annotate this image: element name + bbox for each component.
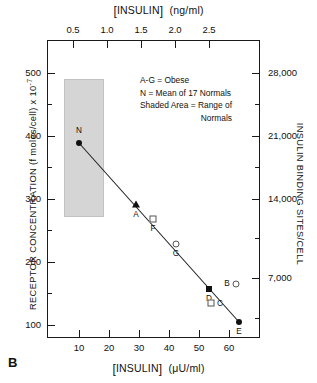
top-axis-title: [INSULIN] (ng/ml) [0, 4, 317, 18]
data-label-a: A [133, 210, 138, 219]
bottom-tick-label-2: 30 [134, 342, 145, 353]
bottom-tick-label-0: 10 [74, 342, 85, 353]
panel-letter: B [8, 355, 17, 370]
data-point-f[interactable] [150, 216, 157, 223]
data-label-e: E [236, 327, 241, 336]
left-tick-label-3: 200 [4, 256, 41, 267]
data-point-c[interactable] [208, 300, 215, 307]
legend-item-shaded: Shaded Area = Range of [140, 99, 232, 112]
bottom-tick-label-4: 50 [194, 342, 205, 353]
data-point-b[interactable] [233, 281, 240, 288]
data-point-d[interactable] [206, 286, 212, 292]
right-tick-label-0: 28,000 [268, 67, 297, 78]
legend: A-G = Obese N = Mean of 17 Normals Shade… [140, 74, 232, 124]
bottom-tick-label-3: 40 [164, 342, 175, 353]
legend-item-normals: N = Mean of 17 Normals [140, 87, 232, 100]
top-tick-label-4: 2.5 [202, 24, 215, 35]
left-tick-label-0: 500 [4, 67, 41, 78]
top-tick-label-0: 0.5 [66, 24, 79, 35]
legend-item-obese: A-G = Obese [140, 74, 232, 87]
data-point-a[interactable] [132, 201, 140, 208]
top-tick-label-1: 1.0 [100, 24, 113, 35]
left-tick-label-2: 300 [4, 193, 41, 204]
data-point-g[interactable] [173, 241, 180, 248]
data-point-n[interactable] [76, 140, 82, 146]
right-tick-label-1: 21,000 [268, 130, 297, 141]
data-label-n: N [76, 126, 82, 135]
left-tick-label-4: 100 [4, 319, 41, 330]
bottom-axis-title-main: INSULIN [116, 362, 159, 374]
legend-item-shaded-cont: Normals [140, 112, 232, 125]
bottom-axis-title: [INSULIN] (μU/ml) [0, 362, 317, 376]
top-axis-title-unit: (ng/ml) [170, 4, 204, 16]
figure-panel-b: [INSULIN] (ng/ml) [INSULIN] (μU/ml) RECE… [0, 0, 317, 383]
bottom-tick-label-1: 20 [104, 342, 115, 353]
data-label-g: G [173, 249, 179, 258]
top-tick-label-3: 2.0 [168, 24, 181, 35]
bottom-tick-label-5: 60 [224, 342, 235, 353]
data-label-c: C [217, 299, 223, 308]
data-label-b: B [224, 279, 229, 288]
data-point-e[interactable] [236, 319, 242, 325]
right-tick-label-3: 7,000 [268, 272, 292, 283]
right-tick-label-2: 14,000 [268, 193, 297, 204]
bottom-axis-title-unit: (μU/ml) [169, 362, 205, 374]
data-label-f: F [150, 224, 155, 233]
left-axis-title-exponent: -7 [26, 79, 33, 86]
left-tick-label-1: 400 [4, 130, 41, 141]
top-axis-title-main: INSULIN [117, 4, 160, 16]
top-tick-label-2: 1.5 [134, 24, 147, 35]
